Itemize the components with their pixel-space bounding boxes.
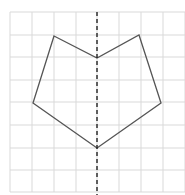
symmetry-diagram bbox=[0, 0, 185, 195]
grid bbox=[10, 12, 185, 192]
